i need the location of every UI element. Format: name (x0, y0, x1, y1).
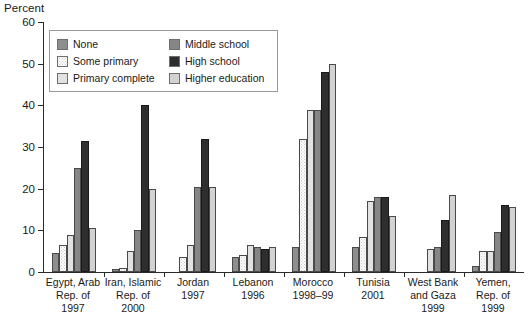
bar (359, 237, 366, 272)
bar (254, 247, 261, 272)
bar-group (464, 22, 524, 272)
bar (52, 253, 59, 272)
x-axis-label-line: Rep. of (457, 289, 529, 302)
bar (307, 110, 314, 273)
legend-item-high-school: High school (169, 53, 279, 69)
bar-group (404, 22, 464, 272)
legend-label-middle-school: Middle school (185, 39, 249, 50)
legend-label-none: None (73, 39, 98, 50)
bar (194, 187, 201, 272)
bar (74, 168, 81, 272)
bar (141, 105, 148, 272)
bar (134, 230, 141, 272)
legend-label-primary-complete: Primary complete (73, 73, 155, 84)
bar-group (284, 22, 344, 272)
legend-label-high-school: High school (185, 56, 240, 67)
y-axis-tick-label: 60 (22, 16, 35, 28)
bar (441, 220, 448, 272)
bar (292, 247, 299, 272)
x-axis-label-line: 1999 (457, 302, 529, 315)
x-axis-label-line: 2000 (97, 302, 169, 315)
bar (239, 255, 246, 272)
x-axis-label-line: Yemen, (457, 276, 529, 289)
y-axis-tick (38, 272, 44, 273)
chart-legend: None Some primary Primary complete Middl… (49, 30, 278, 92)
bar (81, 141, 88, 272)
bar (269, 247, 276, 272)
legend-swatch-high-school-icon (169, 56, 180, 67)
y-axis-tick-label: 30 (22, 141, 35, 153)
bar (149, 189, 156, 272)
bar (329, 64, 336, 272)
bar (179, 257, 186, 272)
y-axis-tick (38, 189, 44, 190)
y-axis-tick (38, 22, 44, 23)
bar (299, 139, 306, 272)
legend-swatch-some-primary-icon (57, 56, 68, 67)
bar (501, 205, 508, 272)
bar (389, 216, 396, 272)
bar (127, 251, 134, 272)
bar (381, 197, 388, 272)
bar (201, 139, 208, 272)
bar (89, 228, 96, 272)
legend-label-some-primary: Some primary (73, 56, 138, 67)
y-axis-tick-label: 20 (22, 183, 35, 195)
bar (449, 195, 456, 272)
legend-swatch-middle-school-icon (169, 39, 180, 50)
legend-item-primary-complete: Primary complete (57, 70, 161, 86)
bar (119, 268, 126, 272)
bar (472, 266, 479, 272)
x-axis-group-label: Yemen,Rep. of1999 (457, 276, 529, 316)
y-axis-tick (38, 64, 44, 65)
legend-column-left: None Some primary Primary complete (57, 36, 161, 86)
legend-item-some-primary: Some primary (57, 53, 161, 69)
bar (487, 251, 494, 272)
bar (261, 249, 268, 272)
bar-chart: Percent 0102030405060 Egypt, ArabRep. of… (0, 0, 529, 332)
bar (509, 207, 516, 272)
bar-group (344, 22, 404, 272)
bar (67, 235, 74, 273)
legend-item-middle-school: Middle school (169, 36, 279, 52)
bar (232, 257, 239, 272)
legend-swatch-higher-education-icon (169, 73, 180, 84)
bar (314, 110, 321, 273)
y-axis-title: Percent (4, 2, 44, 14)
bar (112, 269, 119, 272)
bar (367, 201, 374, 272)
bar (427, 249, 434, 272)
bar (352, 247, 359, 272)
legend-item-none: None (57, 36, 161, 52)
bar (209, 187, 216, 272)
legend-swatch-primary-complete-icon (57, 73, 68, 84)
legend-item-higher-education: Higher education (169, 70, 279, 86)
y-axis-tick (38, 105, 44, 106)
y-axis-tick-label: 40 (22, 99, 35, 111)
legend-label-higher-education: Higher education (185, 73, 264, 84)
y-axis-tick (38, 230, 44, 231)
y-axis-tick (38, 147, 44, 148)
y-axis-tick-label: 0 (29, 266, 35, 278)
bar (479, 251, 486, 272)
x-axis-labels: Egypt, ArabRep. of1997Iran, IslamicRep. … (43, 276, 524, 330)
legend-swatch-none-icon (57, 39, 68, 50)
bar (434, 247, 441, 272)
bar (374, 197, 381, 272)
y-axis-tick-label: 50 (22, 58, 35, 70)
y-axis-tick-label: 10 (22, 224, 35, 236)
bar (187, 245, 194, 272)
legend-column-right: Middle school High school Higher educati… (169, 36, 279, 86)
bar (321, 72, 328, 272)
bar (59, 245, 66, 272)
bar (247, 245, 254, 272)
bar (494, 232, 501, 272)
